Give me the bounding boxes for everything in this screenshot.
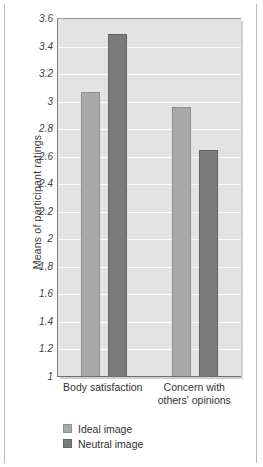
figure-border-right	[256, 4, 257, 463]
bar-neutral-image[interactable]	[108, 34, 127, 377]
bar-ideal-image[interactable]	[81, 92, 100, 377]
bar-neutral-image[interactable]	[199, 150, 218, 377]
y-tick-label: 2.8	[39, 123, 53, 134]
category-label: Concern with others' opinions	[149, 381, 241, 407]
x-axis-baseline	[57, 376, 241, 377]
y-tick-label: 3	[47, 95, 53, 106]
figure-border-left	[4, 4, 5, 463]
y-tick-label: 1.4	[39, 315, 53, 326]
y-tick-label: 3.2	[39, 68, 53, 79]
y-axis-tick-labels: 3.63.43.232.82.62.42.221.81.61.41.21	[26, 18, 53, 376]
y-tick-label: 1	[47, 371, 53, 382]
legend-label: Neutral image	[78, 438, 143, 450]
x-axis-category-labels: Body satisfactionConcern with others' op…	[57, 381, 240, 417]
legend-item[interactable]: Ideal image	[63, 421, 143, 436]
plot-area	[57, 18, 241, 377]
chart-legend: Ideal imageNeutral image	[63, 421, 143, 451]
y-tick-label: 2.6	[39, 150, 53, 161]
legend-item[interactable]: Neutral image	[63, 436, 143, 451]
figure-container: Means of participant ratings 3.63.43.232…	[0, 0, 263, 467]
legend-swatch-icon	[63, 439, 72, 448]
y-tick-label: 3.4	[39, 40, 53, 51]
gridline	[58, 47, 241, 48]
y-tick-label: 1.2	[39, 343, 53, 354]
bar-ideal-image[interactable]	[172, 107, 191, 377]
y-tick-label: 2	[47, 233, 53, 244]
y-tick-label: 1.6	[39, 288, 53, 299]
y-tick-label: 1.8	[39, 260, 53, 271]
y-tick-label: 3.6	[39, 13, 53, 24]
y-tick-label: 2.4	[39, 178, 53, 189]
y-tick-label: 2.2	[39, 205, 53, 216]
category-label: Body satisfaction	[57, 381, 149, 394]
legend-swatch-icon	[63, 424, 72, 433]
legend-label: Ideal image	[78, 423, 132, 435]
gridline	[58, 74, 241, 75]
